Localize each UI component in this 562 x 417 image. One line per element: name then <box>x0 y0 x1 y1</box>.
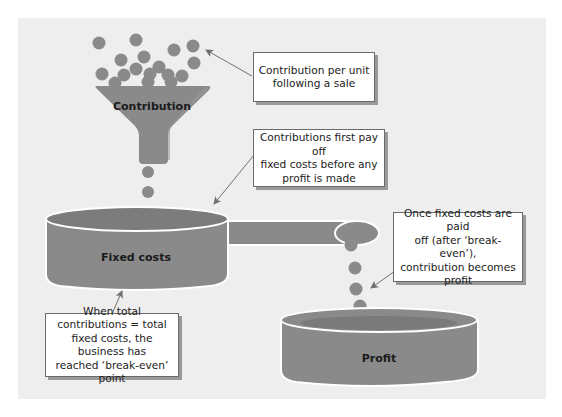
arrow-to-balls <box>206 50 252 76</box>
contribution-funnel: Contribution <box>95 86 210 164</box>
funnel-label: Contribution <box>113 100 191 113</box>
callout-contribution-per-unit: Contribution per unit following a sale <box>253 52 375 102</box>
callout-first-pay-off: Contributions first pay off fixed costs … <box>253 129 385 187</box>
contribution-balls <box>93 34 201 90</box>
profit-label: Profit <box>362 352 396 365</box>
callout-break-even: When total contributions = total fixed c… <box>45 313 179 377</box>
fixed-costs-container: Fixed costs <box>46 207 379 290</box>
callout-becomes-profit: Once fixed costs are paid off (after ‘br… <box>393 212 523 282</box>
fixed-costs-label: Fixed costs <box>101 251 171 264</box>
profit-drops <box>345 239 367 313</box>
arrow-to-fixed-costs <box>214 155 254 204</box>
profit-container: Profit <box>281 308 478 386</box>
funnel-drops <box>142 166 154 198</box>
